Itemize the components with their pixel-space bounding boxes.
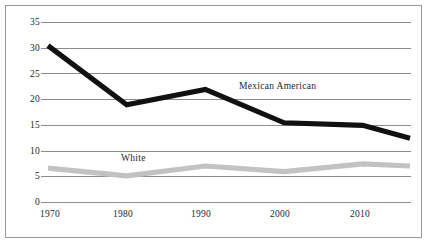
y-axis-tick-35: 35 <box>18 17 40 27</box>
series-label-white: White <box>121 153 146 163</box>
x-axis-tick-2000: 2000 <box>260 209 300 219</box>
x-axis-tick-1990: 1990 <box>181 209 221 219</box>
y-axis-tick-20: 20 <box>18 94 40 104</box>
y-axis-tick-0: 0 <box>18 197 40 207</box>
x-axis-tick-1980: 1980 <box>103 209 143 219</box>
y-axis-tick-30: 30 <box>18 43 40 53</box>
y-axis-tick-10: 10 <box>18 146 40 156</box>
x-axis-tick-2010: 2010 <box>340 209 380 219</box>
series-label-mexican-american: Mexican American <box>239 81 316 91</box>
y-axis-tick-15: 15 <box>18 120 40 130</box>
chart-container: 35 30 25 20 15 10 5 0 1970 1980 1990 200… <box>0 0 427 243</box>
chart-frame-border <box>5 5 422 238</box>
x-axis-tick-1970: 1970 <box>30 209 70 219</box>
y-axis-tick-25: 25 <box>18 69 40 79</box>
y-axis-tick-5: 5 <box>18 171 40 181</box>
